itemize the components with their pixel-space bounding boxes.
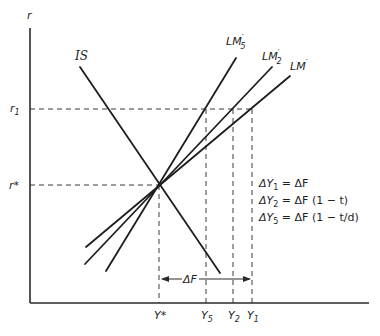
curve-lm5 [106, 58, 236, 271]
curve-is [80, 67, 220, 273]
y-axis-label: r [27, 9, 33, 22]
r-star-label: r* [9, 179, 20, 192]
multiplier-equation: ΔY2 = ΔF (1 − t) [258, 194, 348, 209]
x-tick-label: Y2 [228, 309, 240, 324]
curve-label-lm5: LM′5 [226, 34, 246, 51]
curve-lm2 [85, 67, 272, 264]
curve-label-lm1: LM′ [290, 59, 308, 73]
multiplier-equation: ΔY5 = ΔF (1 − t/d) [258, 211, 359, 226]
x-tick-label: Y5 [201, 309, 213, 324]
curve-label-lm2: LM′2 [262, 49, 282, 66]
is-lm-diagram: rr1r*ISLM′5LM′2LM′Y*Y5Y2Y1 ΔF ΔY1 = ΔFΔY… [0, 0, 380, 336]
r1-label: r1 [10, 102, 20, 117]
multiplier-equation: ΔY1 = ΔF [258, 177, 308, 192]
x-tick-label: Y* [154, 309, 167, 322]
delta-f-label: ΔF [182, 273, 198, 286]
curves [80, 58, 290, 273]
equations-block: ΔY1 = ΔFΔY2 = ΔF (1 − t)ΔY5 = ΔF (1 − t/… [258, 177, 359, 226]
x-tick-label: Y1 [247, 309, 259, 324]
curve-label-is: IS [74, 49, 88, 63]
labels: rr1r*ISLM′5LM′2LM′Y*Y5Y2Y1 [9, 9, 308, 324]
